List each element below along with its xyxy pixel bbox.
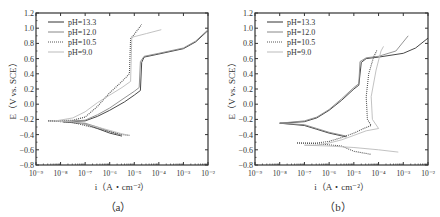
curve-cathodic (48, 121, 129, 135)
y-tick-label: 1.2 (243, 9, 253, 18)
x-tick-label: 10⁻⁵ (127, 169, 142, 178)
y-tick-label: 1.2 (24, 9, 34, 18)
x-tick-label: 10⁻⁷ (297, 169, 312, 178)
chart-panel-a: 1.21.00.80.60.40.20.0−0.2−0.4−0.6−0.810⁻… (0, 0, 220, 217)
legend-item: pH=10.5 (287, 38, 315, 47)
curve-cathodic (297, 143, 371, 154)
y-tick-label: 0.2 (243, 85, 253, 94)
legend-item: pH=13.3 (68, 18, 96, 27)
y-tick-label: 0.0 (243, 100, 253, 109)
y-tick-label: 0.2 (24, 85, 34, 94)
curve-cathodic (56, 121, 130, 135)
y-tick-label: −0.4 (238, 131, 253, 140)
curve-cathodic (280, 123, 347, 137)
x-tick-label: 10⁻⁵ (347, 169, 362, 178)
x-tick-label: 10⁻⁴ (152, 169, 167, 178)
curve-cathodic (304, 145, 398, 152)
y-tick-label: −0.6 (19, 146, 34, 155)
y-tick-label: 0.4 (24, 70, 34, 79)
legend-item: pH=13.3 (287, 18, 315, 27)
y-tick-label: 1.0 (243, 24, 253, 33)
y-tick-label: 0.6 (24, 55, 34, 64)
x-tick-label: 10⁻⁹ (29, 169, 44, 178)
y-tick-label: −0.2 (238, 115, 253, 124)
plot-frame (36, 13, 208, 165)
panel-caption-b: （b） (228, 198, 440, 214)
y-tick-label: 0.8 (24, 39, 34, 48)
x-axis-label: i（A・cm⁻²） (95, 182, 150, 192)
x-tick-label: 10⁻⁶ (103, 169, 118, 178)
x-tick-label: 10⁻⁸ (54, 169, 69, 178)
y-tick-label: −0.2 (19, 115, 34, 124)
y-axis-label: E（V vs. SCE） (8, 58, 18, 119)
chart-panel-b: 1.21.00.80.60.40.20.0−0.2−0.4−0.6−0.810⁻… (220, 0, 440, 217)
curve-anodic (304, 46, 383, 145)
curve-cathodic (280, 123, 347, 136)
legend-item: pH=10.5 (68, 38, 96, 47)
legend-item: pH=12.0 (287, 28, 315, 37)
plot-frame (255, 13, 428, 165)
x-tick-label: 10⁻² (201, 169, 216, 178)
x-tick-label: 10⁻³ (177, 169, 192, 178)
y-axis-label: E（V vs. SCE） (227, 58, 237, 119)
y-tick-label: 0.8 (243, 39, 253, 48)
legend-item: pH=9.0 (68, 48, 92, 57)
x-tick-label: 10⁻² (421, 169, 436, 178)
panel-caption-a: （a） (8, 198, 228, 214)
y-tick-label: 0.0 (24, 100, 34, 109)
y-tick-label: 1.0 (24, 24, 34, 33)
polarization-chart-b: 1.21.00.80.60.40.20.0−0.2−0.4−0.6−0.810⁻… (220, 0, 440, 217)
x-tick-label: 10⁻⁷ (78, 169, 93, 178)
x-axis-label: i（A・cm⁻²） (314, 182, 369, 192)
curve-anodic (297, 50, 377, 144)
x-tick-label: 10⁻⁴ (372, 169, 387, 178)
y-tick-label: 0.4 (243, 70, 253, 79)
x-tick-label: 10⁻³ (396, 169, 411, 178)
polarization-chart-a: 1.21.00.80.60.40.20.0−0.2−0.4−0.6−0.810⁻… (0, 0, 220, 217)
legend-item: pH=9.0 (287, 48, 311, 57)
x-tick-label: 10⁻⁸ (273, 169, 288, 178)
curve-cathodic (63, 122, 122, 136)
x-tick-label: 10⁻⁹ (248, 169, 263, 178)
curve-cathodic (63, 122, 122, 136)
y-tick-label: −0.4 (19, 131, 34, 140)
y-tick-label: −0.6 (238, 146, 253, 155)
x-tick-label: 10⁻⁶ (322, 169, 337, 178)
legend-item: pH=12.0 (68, 28, 96, 37)
y-tick-label: 0.6 (243, 55, 253, 64)
